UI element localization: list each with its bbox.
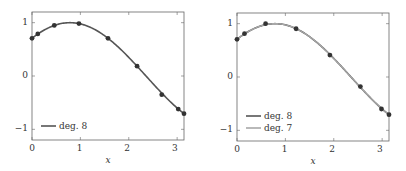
xtick-label-0: 0 (234, 144, 240, 154)
data-point (159, 92, 164, 97)
data-point (77, 21, 82, 26)
data-point (327, 53, 332, 58)
ticks (237, 13, 389, 141)
data-point (35, 32, 40, 37)
interpolation-points (30, 21, 187, 116)
data-point (235, 37, 240, 42)
ytick-label-minus1: −1 (220, 124, 233, 134)
xtick-label-0: 0 (29, 143, 35, 153)
ytick-label-0: 0 (22, 70, 28, 80)
data-point (242, 31, 247, 36)
legend: deg. 8 (41, 121, 88, 131)
data-point (387, 112, 392, 117)
xtick-label-1: 1 (282, 144, 288, 154)
ytick-label-1: 1 (22, 17, 28, 27)
data-point (176, 107, 181, 112)
xtick-label-2: 2 (124, 143, 130, 153)
plot-frame (32, 12, 184, 140)
data-point (52, 23, 57, 28)
legend-label-deg-8: deg. 8 (59, 121, 88, 131)
legend-label-deg-7: deg. 7 (264, 123, 293, 133)
ytick-label-0: 0 (227, 71, 233, 81)
plot-left: 0 1 2 3 1 0 −1 x deg. 8 (15, 12, 187, 165)
ytick-label-minus1: −1 (15, 123, 28, 133)
ticks (32, 12, 184, 140)
xtick-label-3: 3 (172, 143, 178, 153)
data-point (263, 21, 268, 26)
data-point (182, 111, 187, 116)
data-point (106, 36, 111, 41)
ytick-label-1: 1 (227, 18, 233, 28)
x-axis-label: x (310, 156, 315, 166)
curve-deg-8 (237, 24, 389, 115)
xtick-label-1: 1 (77, 143, 83, 153)
data-point (379, 107, 384, 112)
legend-label-deg-8: deg. 8 (264, 111, 293, 121)
x-axis-label: x (105, 155, 110, 165)
plot-frame (237, 13, 389, 141)
data-point (135, 64, 140, 69)
xtick-label-3: 3 (377, 144, 383, 154)
data-point (30, 36, 35, 41)
data-point (294, 26, 299, 31)
data-point (358, 84, 363, 89)
curve-deg-7 (237, 24, 389, 115)
interpolation-points (235, 21, 392, 117)
legend: deg. 8 deg. 7 (246, 111, 293, 133)
plot-right: 0 1 2 3 1 0 −1 x deg. 8 deg. 7 (220, 13, 392, 166)
chart-figure: 0 1 2 3 1 0 −1 x deg. 8 0 1 2 3 1 0 −1 x… (0, 0, 406, 171)
xtick-label-2: 2 (329, 144, 335, 154)
